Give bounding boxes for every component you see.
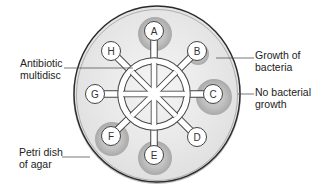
multidisc-diagram: ABCDEFGH Antibiotic multidisc Growth of … <box>0 0 327 194</box>
label-petri-dish: Petri dish of agar <box>19 146 63 170</box>
label-line: Growth of <box>255 49 301 61</box>
label-line: Petri dish <box>19 146 63 158</box>
label-line: multidisc <box>20 69 63 81</box>
disc-h: H <box>102 42 121 61</box>
disc-d: D <box>188 128 207 147</box>
label-line: Antibiotic <box>20 57 63 69</box>
disc-a: A <box>145 22 164 41</box>
label-line: bacteria <box>255 61 301 73</box>
disc-c: C <box>204 85 223 104</box>
disc-letter: E <box>151 150 158 161</box>
disc-b: B <box>188 42 207 61</box>
disc-letter: F <box>108 131 114 142</box>
disc-letter: B <box>194 46 201 57</box>
label-no-bacterial-growth: No bacterial growth <box>255 86 311 110</box>
disc-letter: C <box>209 89 216 100</box>
label-line: of agar <box>19 158 63 170</box>
label-growth-of-bacteria: Growth of bacteria <box>255 49 301 73</box>
label-line: growth <box>255 98 311 110</box>
disc-f: F <box>102 127 121 146</box>
disc-letter: H <box>107 46 114 57</box>
disc-letter: G <box>91 89 99 100</box>
disc-g: G <box>86 85 105 104</box>
disc-letter: D <box>193 132 200 143</box>
label-antibiotic-multidisc: Antibiotic multidisc <box>20 57 63 81</box>
disc-e: E <box>145 146 164 165</box>
label-line: No bacterial <box>255 86 311 98</box>
disc-letter: A <box>151 26 158 37</box>
